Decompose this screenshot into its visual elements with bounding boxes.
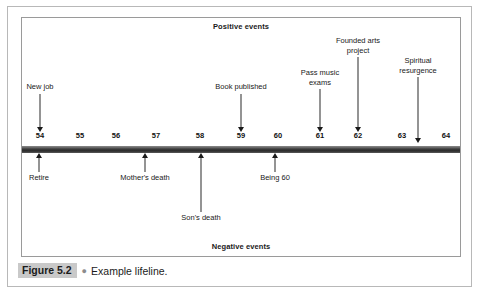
axis-tick-55: 55 [76,131,84,140]
event-label-mother-s-death: Mother's death [120,173,169,183]
axis-tick-64: 64 [442,131,450,140]
bullet-icon: ● [77,265,91,277]
event-arrowhead-retire [36,153,42,158]
figure-caption: Figure 5.2 ● Example lifeline. [18,263,168,278]
event-label-spiritual-resurgence: Spiritual resurgence [399,56,437,75]
figure-page: Positive events Negative events 54555657… [0,0,479,293]
event-stem-book-published [241,94,242,128]
timeline-axis-bar [22,146,460,153]
axis-tick-54: 54 [36,131,44,140]
axis-tick-58: 58 [196,131,204,140]
event-arrowhead-founded-arts-project [355,127,361,132]
event-stem-spiritual-resurgence [418,77,419,138]
event-arrowhead-son-s-death [198,153,204,158]
axis-tick-56: 56 [112,131,120,140]
event-label-retire: Retire [29,173,49,183]
event-label-founded-arts-project: Founded arts project [336,36,380,55]
event-arrowhead-book-published [238,127,244,132]
event-arrowhead-spiritual-resurgence [415,138,421,143]
event-label-being-60: Being 60 [260,173,290,183]
event-stem-pass-music-exams [320,89,321,127]
event-stem-son-s-death [201,158,202,212]
event-label-book-published: Book published [215,82,266,92]
event-arrowhead-pass-music-exams [317,127,323,132]
axis-tick-57: 57 [152,131,160,140]
event-arrowhead-mother-s-death [142,153,148,158]
figure-caption-text: Example lifeline. [91,265,167,277]
negative-events-label: Negative events [22,242,460,251]
event-arrowhead-new-job [37,127,43,132]
event-arrowhead-being-60 [272,153,278,158]
positive-events-label: Positive events [22,22,460,31]
event-label-pass-music-exams: Pass music exams [301,68,339,87]
event-stem-founded-arts-project [358,57,359,127]
figure-number: Figure 5.2 [18,263,77,278]
axis-tick-62: 62 [354,131,362,140]
event-label-son-s-death: Son's death [181,213,220,223]
axis-tick-61: 61 [316,131,324,140]
event-stem-being-60 [275,158,276,172]
event-stem-new-job [40,94,41,128]
axis-tick-59: 59 [237,131,245,140]
event-stem-mother-s-death [145,158,146,172]
axis-tick-63: 63 [398,131,406,140]
event-label-new-job: New job [26,82,53,92]
axis-tick-60: 60 [274,131,282,140]
event-stem-retire [39,158,40,172]
